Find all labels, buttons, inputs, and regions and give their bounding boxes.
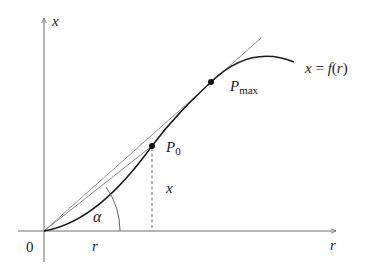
angle-arc <box>106 187 120 231</box>
x-segment-label: x <box>165 180 173 196</box>
alpha-label: α <box>93 208 102 225</box>
point-p0 <box>149 143 155 149</box>
x-axis-label: r <box>330 237 336 253</box>
point-pmax <box>208 79 214 85</box>
y-axis-label: x <box>51 13 59 29</box>
r-segment-label: r <box>92 238 98 254</box>
curve-label: x = f(r) <box>304 60 348 77</box>
tangent-line <box>44 38 261 231</box>
diagram-canvas: x r 0 r x α P0 Pmax x = f(r) <box>0 0 368 274</box>
origin-label: 0 <box>26 239 34 255</box>
pmax-label: Pmax <box>229 78 259 96</box>
p0-label: P0 <box>165 139 181 157</box>
